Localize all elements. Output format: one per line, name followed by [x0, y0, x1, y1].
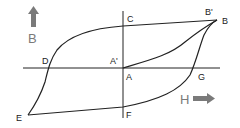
point-label-c: C — [127, 14, 134, 24]
point-label-d: D — [42, 56, 49, 66]
b-axis-label: B — [28, 31, 37, 46]
point-label-f: F — [126, 110, 132, 120]
point-label-e: E — [16, 113, 22, 123]
right-arrow-icon — [193, 93, 215, 104]
point-label-g: G — [198, 72, 205, 82]
h-axis-label: H — [180, 92, 189, 107]
up-arrow-icon — [28, 6, 39, 27]
point-label-b: B — [222, 16, 228, 26]
point-label-b-prime: B' — [205, 7, 213, 17]
initial-magnetization-curve — [123, 20, 217, 68]
hysteresis-diagram: B H C B' B D A' A G E F — [0, 0, 240, 128]
point-label-a: A — [126, 72, 132, 82]
point-label-a-prime: A' — [110, 56, 118, 66]
